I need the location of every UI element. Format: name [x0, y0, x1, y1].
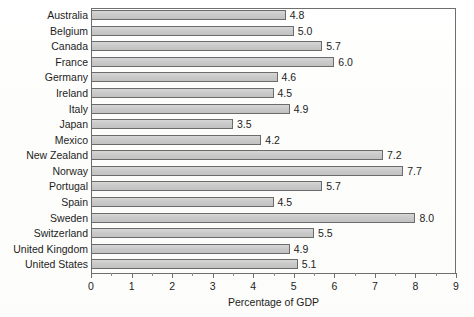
category-label: Japan	[0, 118, 88, 131]
bar	[91, 213, 415, 223]
bar	[91, 104, 290, 114]
category-label: Portugal	[0, 180, 88, 193]
x-tick-label: 7	[360, 280, 390, 292]
bar	[91, 228, 314, 238]
bar-value-label: 5.0	[298, 25, 313, 38]
bar	[91, 72, 278, 82]
category-label: Germany	[0, 71, 88, 84]
x-tick-major	[456, 273, 457, 278]
bar-value-label: 4.9	[294, 243, 309, 256]
bar-row: Germany4.6	[0, 70, 474, 86]
bar-value-label: 4.5	[278, 196, 293, 209]
bar-row: Spain4.5	[0, 195, 474, 211]
x-axis-title: Percentage of GDP	[91, 296, 456, 308]
bar-row: New Zealand7.2	[0, 148, 474, 164]
x-tick-minor	[152, 273, 153, 276]
bar-value-label: 5.7	[326, 180, 341, 193]
category-label: United States	[0, 258, 88, 271]
category-label: Australia	[0, 9, 88, 22]
bar-row: Norway7.7	[0, 164, 474, 180]
bar-row: Belgium5.0	[0, 24, 474, 40]
category-label: Spain	[0, 196, 88, 209]
bar	[91, 244, 290, 254]
x-tick-minor	[314, 273, 315, 276]
category-label: Belgium	[0, 25, 88, 38]
x-tick-label: 4	[238, 280, 268, 292]
x-tick-minor	[355, 273, 356, 276]
bar	[91, 119, 233, 129]
bar	[91, 57, 334, 67]
bar	[91, 26, 294, 36]
x-tick-minor	[233, 273, 234, 276]
category-label: Norway	[0, 165, 88, 178]
bar-row: United Kingdom4.9	[0, 242, 474, 258]
bar-value-label: 4.8	[290, 9, 305, 22]
x-tick-label: 2	[157, 280, 187, 292]
x-tick-major	[132, 273, 133, 278]
category-label: New Zealand	[0, 149, 88, 162]
x-tick-major	[334, 273, 335, 278]
bar-rows-container: Australia4.8Belgium5.0Canada5.7France6.0…	[0, 8, 474, 273]
x-tick-major	[415, 273, 416, 278]
bar-row: Portugal5.7	[0, 179, 474, 195]
category-label: Sweden	[0, 212, 88, 225]
category-label: Italy	[0, 103, 88, 116]
x-tick-label: 0	[76, 280, 106, 292]
bar-row: Italy4.9	[0, 102, 474, 118]
category-label: France	[0, 56, 88, 69]
bar	[91, 181, 322, 191]
x-tick-label: 3	[198, 280, 228, 292]
bar	[91, 88, 274, 98]
bar-row: France6.0	[0, 55, 474, 71]
category-label: Ireland	[0, 87, 88, 100]
x-tick-minor	[192, 273, 193, 276]
bar	[91, 150, 383, 160]
x-tick-minor	[111, 273, 112, 276]
bar-row: Sweden8.0	[0, 211, 474, 227]
x-tick-label: 6	[319, 280, 349, 292]
bar-value-label: 8.0	[419, 212, 434, 225]
bar-row: Mexico4.2	[0, 133, 474, 149]
bar-value-label: 7.2	[387, 149, 402, 162]
x-tick-major	[375, 273, 376, 278]
bar	[91, 41, 322, 51]
x-tick-minor	[274, 273, 275, 276]
x-tick-label: 1	[117, 280, 147, 292]
x-tick-major	[91, 273, 92, 278]
category-label: United Kingdom	[0, 243, 88, 256]
x-tick-major	[213, 273, 214, 278]
x-tick-label: 9	[441, 280, 471, 292]
bar-value-label: 4.5	[278, 87, 293, 100]
x-tick-major	[253, 273, 254, 278]
bar-value-label: 5.7	[326, 40, 341, 53]
bar-row: Switzerland5.5	[0, 226, 474, 242]
bar-value-label: 4.9	[294, 103, 309, 116]
bar-row: Ireland4.5	[0, 86, 474, 102]
x-tick-minor	[436, 273, 437, 276]
bar-row: Australia4.8	[0, 8, 474, 24]
category-label: Switzerland	[0, 227, 88, 240]
bar-row: Canada5.7	[0, 39, 474, 55]
chart-page: Australia4.8Belgium5.0Canada5.7France6.0…	[0, 0, 474, 317]
x-tick-label: 5	[279, 280, 309, 292]
bar	[91, 10, 286, 20]
bar-value-label: 5.1	[302, 258, 317, 271]
x-tick-minor	[395, 273, 396, 276]
category-label: Mexico	[0, 134, 88, 147]
category-label: Canada	[0, 40, 88, 53]
bar-row: Japan3.5	[0, 117, 474, 133]
bar	[91, 197, 274, 207]
bar	[91, 259, 298, 269]
bar	[91, 166, 403, 176]
bar-row: United States5.1	[0, 257, 474, 273]
x-tick-label: 8	[400, 280, 430, 292]
bar-value-label: 5.5	[318, 227, 333, 240]
bar	[91, 135, 261, 145]
bar-value-label: 4.6	[282, 71, 297, 84]
x-tick-major	[172, 273, 173, 278]
bar-value-label: 3.5	[237, 118, 252, 131]
bar-value-label: 4.2	[265, 134, 280, 147]
bar-value-label: 7.7	[407, 165, 422, 178]
x-tick-major	[294, 273, 295, 278]
bar-value-label: 6.0	[338, 56, 353, 69]
